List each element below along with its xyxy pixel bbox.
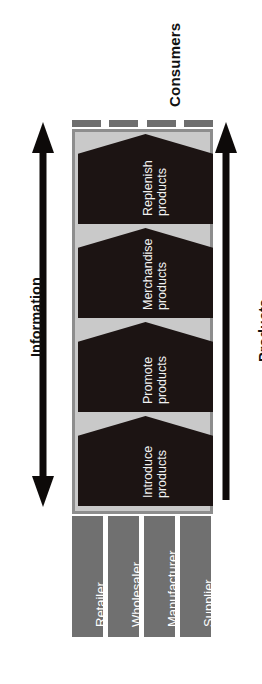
consumer-segment-1 — [72, 120, 101, 127]
role-bar-supplier: Supplier — [180, 516, 211, 637]
stage-label-line1: Replenish — [141, 160, 155, 216]
role-bar-wholesaler: Wholesaler — [108, 516, 139, 637]
consumer-segment-4 — [184, 120, 213, 127]
consumer-segment-3 — [147, 120, 176, 127]
products-arrow-icon — [214, 122, 238, 500]
stage-label-line1: Promote — [141, 356, 155, 404]
role-bar-retailer: Retailer — [72, 516, 103, 637]
stage-label-replenish: Replenishproducts — [141, 160, 169, 216]
consumer-interface-segments — [72, 120, 213, 127]
diagram-canvas: Consumers Information Products Replenish… — [0, 0, 262, 684]
stage-label-promote: Promoteproducts — [141, 356, 169, 404]
information-label: Information — [29, 277, 44, 357]
stage-merchandise: Merchandiseproducts — [78, 228, 213, 318]
supply-chain-container: ReplenishproductsMerchandiseproductsProm… — [72, 129, 213, 514]
stage-promote: Promoteproducts — [78, 322, 213, 412]
stage-introduce: Introduceproducts — [78, 416, 213, 506]
stage-label-line1: Merchandise — [141, 238, 155, 310]
stage-label-introduce: Introduceproducts — [141, 446, 169, 498]
stage-label-line2: products — [155, 356, 169, 404]
consumer-segment-2 — [109, 120, 138, 127]
products-label: Products — [257, 299, 262, 362]
stage-label-line1: Introduce — [141, 446, 155, 498]
role-label-wholesaler: Wholesaler — [130, 562, 143, 627]
role-bar-manufacturer: Manufacturer — [144, 516, 175, 637]
stage-label-line2: products — [155, 238, 169, 310]
stage-label-line2: products — [155, 160, 169, 216]
stage-label-merchandise: Merchandiseproducts — [141, 238, 169, 310]
stage-label-line2: products — [155, 446, 169, 498]
role-label-retailer: Retailer — [94, 582, 107, 627]
role-label-supplier: Supplier — [202, 579, 215, 627]
stage-replenish: Replenishproducts — [78, 134, 213, 224]
role-label-manufacturer: Manufacturer — [166, 550, 179, 627]
consumers-label: Consumers — [167, 23, 182, 107]
